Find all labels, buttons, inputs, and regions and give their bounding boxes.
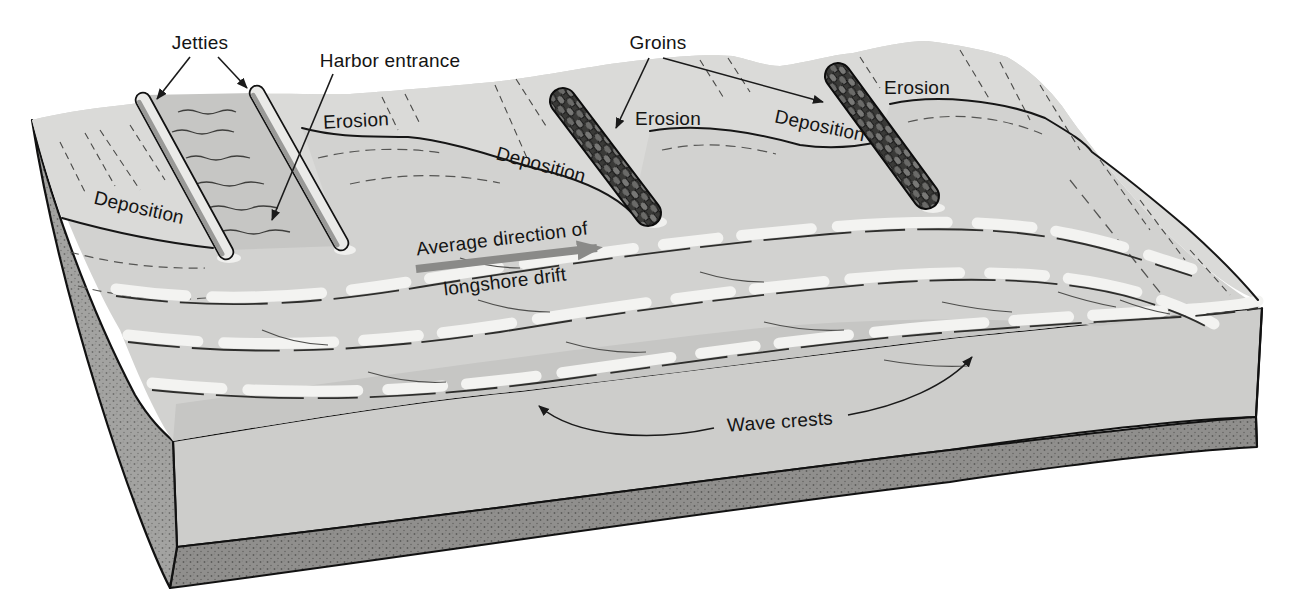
jetties-arrow-right: [218, 57, 247, 88]
label-erosion-near-harbor: Erosion: [323, 108, 390, 133]
diagram-canvas: [0, 0, 1297, 613]
label-jetties: Jetties: [172, 32, 228, 54]
label-erosion-downdrift-groin1: Erosion: [635, 108, 701, 130]
label-erosion-downdrift-groin2: Erosion: [884, 77, 950, 99]
label-groins: Groins: [629, 32, 686, 54]
coastal-block-diagram: Jetties Harbor entrance Erosion Depositi…: [0, 0, 1297, 613]
label-harbor-entrance: Harbor entrance: [320, 50, 460, 72]
jetties-arrow-left: [157, 57, 190, 99]
